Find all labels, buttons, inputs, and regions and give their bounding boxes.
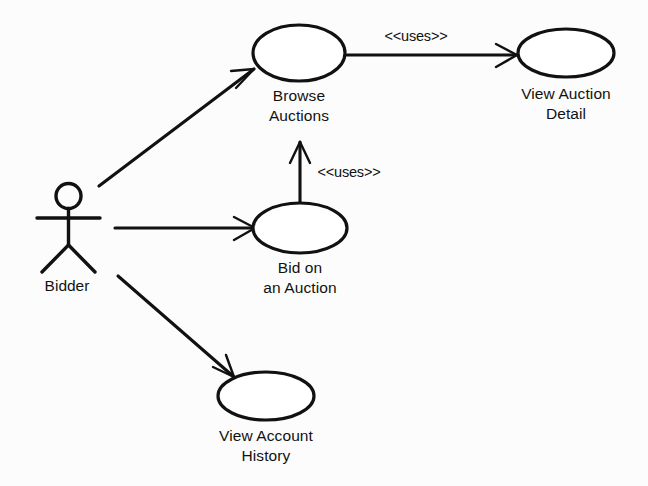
use-case-browse-auctions[interactable]: Browse Auctions	[253, 25, 345, 124]
use-case-label-line2: Detail	[546, 105, 586, 122]
actor-label-bidder: Bidder	[45, 277, 90, 294]
stereotype-label-uses: <<uses>>	[318, 164, 381, 180]
association-line	[118, 276, 234, 377]
use-case-label-line1: View Account	[219, 427, 314, 444]
use-case-view-account-history[interactable]: View Account History	[218, 372, 314, 464]
use-case-label-line2: an Auction	[263, 279, 336, 296]
use-case-label-line1: Bid on	[278, 259, 323, 276]
diagram-svg: Bidder <<uses>> <<uses>>	[0, 0, 648, 486]
use-case-label-line1: View Auction	[521, 85, 611, 102]
actor-left-leg-line	[42, 245, 69, 272]
uses-browse-auctions-to-view-auction-detail[interactable]: <<uses>>	[347, 28, 517, 67]
association-bidder-to-browse-auctions[interactable]	[99, 69, 254, 186]
association-line	[99, 69, 254, 186]
use-case-bid-on-an-auction[interactable]: Bid on an Auction	[253, 203, 347, 296]
actor-right-leg-line	[69, 245, 96, 272]
use-case-view-auction-detail[interactable]: View Auction Detail	[518, 29, 614, 122]
association-bidder-to-view-account-history[interactable]	[118, 276, 234, 377]
use-case-ellipse	[518, 29, 614, 77]
use-case-ellipse	[253, 25, 345, 81]
uses-bid-on-an-auction-to-browse-auctions[interactable]: <<uses>>	[290, 142, 380, 203]
use-case-ellipse	[253, 203, 347, 253]
use-case-label-line2: Auctions	[269, 107, 329, 124]
actor-bidder[interactable]: Bidder	[37, 184, 100, 295]
use-case-ellipse	[218, 372, 314, 420]
actor-head-icon	[56, 184, 81, 209]
use-case-label-line2: History	[242, 447, 291, 464]
association-bidder-to-bid-on-an-auction[interactable]	[115, 217, 255, 240]
use-case-label-line1: Browse	[273, 87, 325, 104]
use-case-diagram-canvas: Bidder <<uses>> <<uses>>	[0, 0, 648, 486]
stereotype-label-uses: <<uses>>	[385, 28, 448, 44]
